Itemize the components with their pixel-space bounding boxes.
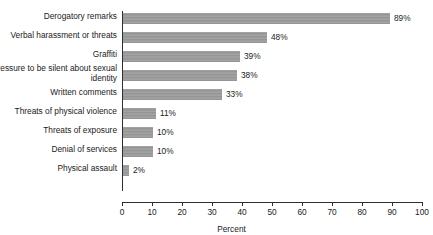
bar-rows: Derogatory remarks89%Verbal harassment o… [0,11,433,182]
category-label: Pressure to be silent about sexual ident… [0,63,117,83]
bar-chart: Derogatory remarks89%Verbal harassment o… [0,0,433,235]
x-tick [362,202,363,206]
bar [123,13,390,24]
x-tick [302,202,303,206]
x-tick [422,202,423,206]
x-tick [242,202,243,206]
bar [123,146,153,157]
bar-row: Derogatory remarks89% [0,11,433,30]
category-label: Graffiti [93,49,117,60]
category-label: Written comments [50,87,117,98]
x-axis-title-wrap: Percent [0,224,433,234]
bar [123,32,267,43]
bar-track: 48% [123,32,423,43]
x-tick-label: 90 [387,207,396,217]
bar-row: Physical assault2% [0,163,433,182]
bar [123,89,222,100]
bar-row: Threats of exposure10% [0,125,433,144]
bar-value-label: 10% [157,127,174,138]
x-tick-label: 60 [297,207,306,217]
x-tick [152,202,153,206]
bar-track: 2% [123,165,423,176]
bar-value-label: 89% [394,13,411,24]
x-tick [392,202,393,206]
plot-area: Derogatory remarks89%Verbal harassment o… [0,11,433,191]
x-tick-label: 50 [267,207,276,217]
category-label: Derogatory remarks [44,11,117,22]
bar-value-label: 10% [157,146,174,157]
x-tick [332,202,333,206]
category-label: Physical assault [58,163,118,174]
bar-row: Denial of services10% [0,144,433,163]
bar-track: 38% [123,70,423,81]
bar-value-label: 39% [244,51,261,62]
bar [123,165,129,176]
category-label: Denial of services [52,144,117,155]
bar-value-label: 33% [226,89,243,100]
x-tick-label: 40 [237,207,246,217]
bar [123,51,240,62]
bar-row: Pressure to be silent about sexual ident… [0,68,433,87]
x-tick-label: 20 [177,207,186,217]
x-axis-ticks: 0102030405060708090100 [0,202,433,208]
bar [123,70,237,81]
category-label: Threats of physical violence [15,106,117,117]
bar-value-label: 48% [271,32,288,43]
bar-row: Verbal harassment or threats48% [0,30,433,49]
x-tick-label: 80 [357,207,366,217]
bar-row: Written comments33% [0,87,433,106]
x-tick-label: 100 [415,207,429,217]
x-tick [182,202,183,206]
x-tick [122,202,123,206]
bar-track: 33% [123,89,423,100]
x-tick [272,202,273,206]
bar-track: 11% [123,108,423,119]
bar-track: 10% [123,146,423,157]
bar-value-label: 2% [133,165,145,176]
bar [123,108,156,119]
x-axis-title: Percent [217,224,246,234]
x-tick [212,202,213,206]
category-label: Verbal harassment or threats [10,30,117,41]
bar-track: 89% [123,13,423,24]
bar-track: 39% [123,51,423,62]
x-tick-label: 70 [327,207,336,217]
category-label: Threats of exposure [43,125,117,136]
bar-value-label: 11% [160,108,176,119]
x-tick-label: 0 [120,207,125,217]
x-tick-label: 10 [147,207,156,217]
bar-row: Threats of physical violence11% [0,106,433,125]
bar-track: 10% [123,127,423,138]
bar [123,127,153,138]
bar-value-label: 38% [241,70,258,81]
x-tick-label: 30 [207,207,216,217]
